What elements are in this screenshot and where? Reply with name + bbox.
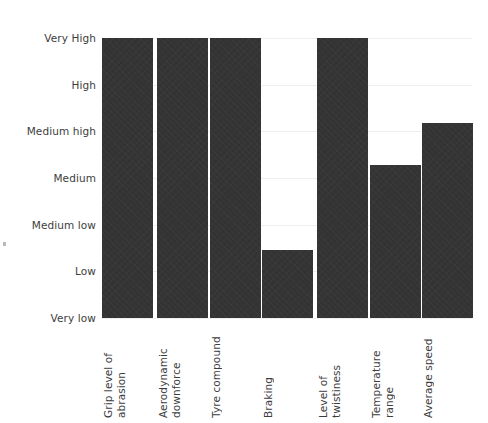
y-tick-label: Very low (0, 312, 96, 324)
x-tick-label: Braking (262, 320, 313, 418)
bar-chart: Very HighHighMedium highMediumMedium low… (0, 0, 488, 423)
y-tick-label: Very High (0, 32, 96, 44)
y-tick-label: Medium (0, 172, 96, 184)
x-tick-label: Level of twistiness (317, 320, 368, 418)
plot-area (102, 38, 472, 318)
bar-3 (262, 250, 313, 318)
y-tick-label: Low (0, 265, 96, 277)
x-tick-label: Temperature range (370, 320, 421, 418)
x-tick-label: Average speed (422, 320, 473, 418)
y-tick-label: Medium low (0, 219, 96, 231)
x-tick-label: Tyre compound (210, 320, 261, 418)
x-tick-label: Aerodynamic downforce (157, 320, 208, 418)
x-axis: Grip level of abrasionAerodynamic downfo… (102, 320, 472, 420)
bar-1 (157, 38, 208, 318)
y-axis: Very HighHighMedium highMediumMedium low… (0, 38, 96, 318)
bar-0 (102, 38, 153, 318)
gridline (102, 318, 472, 319)
bar-5 (370, 165, 421, 318)
y-tick-label: High (0, 79, 96, 91)
x-tick-label: Grip level of abrasion (102, 320, 153, 418)
y-tick-label: Medium high (0, 125, 96, 137)
bar-6 (422, 123, 473, 318)
bar-2 (210, 38, 261, 318)
bar-4 (317, 38, 368, 318)
